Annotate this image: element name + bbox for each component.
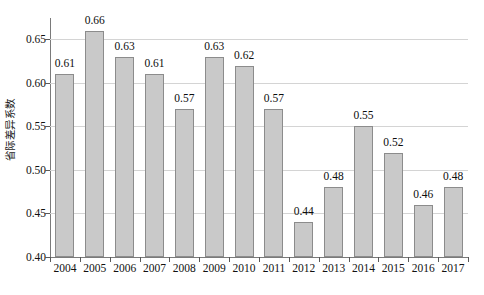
bar [205,57,224,257]
y-axis-tick-label: 0.55 [26,120,46,132]
bar [324,187,343,257]
bar-value-label: 0.57 [264,92,284,104]
x-axis-tick-mark [319,257,320,262]
x-axis-tick-label: 2017 [442,262,465,274]
x-axis-tick-mark [438,257,439,262]
x-axis-tick-label: 2013 [322,262,345,274]
gridline [50,83,468,84]
x-axis-tick-mark [468,257,469,262]
x-axis-tick-mark [50,257,51,262]
gridline [50,126,468,127]
bar-value-label: 0.52 [383,136,403,148]
x-axis-tick-mark [80,257,81,262]
bar-value-label: 0.61 [144,57,164,69]
bar [115,57,134,257]
bar [85,31,104,257]
x-axis-tick-label: 2016 [412,262,435,274]
bar-chart: 省际差异系数 0.400.450.500.550.600.65 0.610.66… [0,0,484,295]
bar [145,74,164,257]
x-axis-tick-label: 2012 [292,262,315,274]
x-axis-tick-mark [229,257,230,262]
bar-value-label: 0.66 [85,14,105,26]
x-axis-tick-label: 2015 [382,262,405,274]
bar-value-label: 0.61 [55,57,75,69]
y-axis-tick-label: 0.40 [26,251,46,263]
bar [175,109,194,257]
bar [384,153,403,257]
bar [414,205,433,257]
x-axis-tick-labels: 2004200520062007200820092010201120122013… [50,262,468,286]
y-axis-tick-label: 0.50 [26,164,46,176]
gridline [50,39,468,40]
bar [55,74,74,257]
bar-value-label: 0.63 [115,40,135,52]
y-axis-tick-mark [45,126,50,127]
gridline [50,213,468,214]
bar [354,126,373,257]
x-axis-tick-mark [140,257,141,262]
bar-value-label: 0.57 [174,92,194,104]
bar-value-label: 0.62 [234,49,254,61]
x-axis-tick-label: 2014 [352,262,375,274]
x-axis-tick-label: 2011 [263,262,286,274]
y-axis-tick-label: 0.45 [26,207,46,219]
bar-value-label: 0.48 [324,170,344,182]
x-axis-tick-mark [349,257,350,262]
x-axis-tick-label: 2006 [113,262,136,274]
bar [444,187,463,257]
x-axis-tick-mark [169,257,170,262]
x-axis-tick-label: 2004 [53,262,76,274]
x-axis-tick-label: 2008 [173,262,196,274]
bar [235,66,254,257]
y-axis-tick-mark [45,213,50,214]
y-axis-tick-label: 0.65 [26,33,46,45]
bar-value-label: 0.55 [353,109,373,121]
x-axis-tick-label: 2009 [203,262,226,274]
x-axis-tick-mark [378,257,379,262]
x-axis-tick-mark [259,257,260,262]
bar [264,109,283,257]
y-axis-tick-mark [45,170,50,171]
x-axis-tick-mark [110,257,111,262]
x-axis-tick-mark [289,257,290,262]
x-axis-tick-mark [408,257,409,262]
bar-value-label: 0.46 [413,188,433,200]
y-axis-tick-mark [45,83,50,84]
x-axis-tick-label: 2005 [83,262,106,274]
y-axis-tick-label: 0.60 [26,77,46,89]
bar-value-label: 0.44 [294,205,314,217]
gridline [50,170,468,171]
x-axis-tick-mark [199,257,200,262]
bar-value-label: 0.48 [443,170,463,182]
x-axis-tick-label: 2007 [143,262,166,274]
plot-area: 0.610.660.630.610.570.630.620.570.440.48… [50,22,468,257]
bar [294,222,313,257]
y-axis-tick-mark [45,39,50,40]
x-axis-tick-label: 2010 [233,262,256,274]
bar-value-label: 0.63 [204,40,224,52]
